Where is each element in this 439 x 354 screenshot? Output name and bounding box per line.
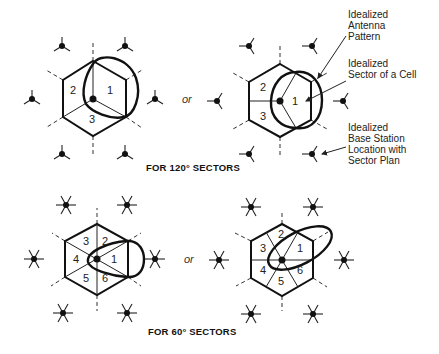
base-station-icon — [277, 98, 284, 105]
or-label: or — [184, 253, 195, 265]
sector-label: 2 — [260, 81, 266, 93]
pointer-arrow — [318, 36, 346, 78]
base-station-icon — [279, 257, 286, 264]
panel-120-b: 1 2 3 — [233, 44, 327, 157]
base-station-icon — [90, 96, 97, 103]
svg-text:Location with: Location with — [348, 144, 406, 155]
panel-60-a: 1 2 3 4 5 6 — [51, 208, 144, 311]
sector-label: 5 — [83, 272, 89, 284]
sector-label: 2 — [102, 235, 108, 247]
svg-text:Antenna: Antenna — [348, 20, 386, 31]
caption-60: FOR 60° SECTORS — [148, 326, 236, 337]
or-label: or — [182, 93, 193, 105]
sector-label: 3 — [260, 110, 266, 122]
sector-diagram: 1 2 3 or 1 2 3 — [0, 0, 439, 354]
sector-label: 4 — [260, 264, 266, 276]
sector-label: 1 — [297, 242, 303, 254]
svg-text:Idealized: Idealized — [348, 9, 388, 20]
caption-120: FOR 120° SECTORS — [146, 162, 240, 173]
sector-label: 4 — [73, 253, 79, 265]
sector-label: 5 — [278, 275, 284, 287]
sector-label: 1 — [111, 253, 117, 265]
sector-label: 6 — [297, 264, 303, 276]
sector-label: 6 — [102, 272, 108, 284]
svg-text:Idealized: Idealized — [348, 122, 388, 133]
sector-label: 3 — [83, 235, 89, 247]
svg-text:Idealized: Idealized — [348, 58, 388, 69]
legend-base-station: Idealized Base Station Location with Sec… — [348, 122, 406, 166]
base-station-icon — [94, 256, 101, 263]
sector-label: 3 — [260, 242, 266, 254]
pointer-arrow — [322, 147, 346, 154]
svg-text:Sector of a Cell: Sector of a Cell — [348, 69, 416, 80]
legend-sector-of-cell: Idealized Sector of a Cell — [348, 58, 416, 80]
sector-label: 3 — [89, 113, 95, 125]
svg-text:Sector Plan: Sector Plan — [348, 155, 400, 166]
panel-60-b: 1 2 3 4 5 6 — [235, 210, 338, 311]
svg-text:Pattern: Pattern — [348, 31, 380, 42]
sector-label: 2 — [70, 84, 76, 96]
sector-label: 2 — [278, 228, 284, 240]
panel-120-a: 1 2 3 — [46, 40, 142, 156]
sector-label: 1 — [292, 95, 298, 107]
svg-text:Base Station: Base Station — [348, 133, 405, 144]
legend-antenna-pattern: Idealized Antenna Pattern — [348, 9, 388, 42]
sector-label: 1 — [107, 84, 113, 96]
